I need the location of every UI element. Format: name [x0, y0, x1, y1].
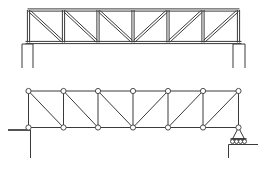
diagonal-member: [99, 11, 132, 42]
diagonal-member: [29, 91, 64, 128]
pin-support: [8, 130, 31, 158]
pin-joint: [200, 125, 205, 130]
pin-joint: [61, 125, 66, 130]
pin-joint: [95, 88, 100, 93]
roller-icon: [239, 140, 243, 144]
roller-icon: [243, 140, 247, 144]
diagonal-member: [134, 11, 167, 42]
pin-joint: [61, 88, 66, 93]
diagonal-member: [168, 91, 203, 128]
truss-diagram: [0, 0, 272, 171]
diagonal-member: [98, 91, 133, 128]
bottom-chord: [26, 41, 242, 43]
vertical-member: [27, 10, 29, 43]
vertical-member: [202, 10, 204, 43]
vertical-member: [62, 10, 64, 43]
diagonal-member: [133, 91, 168, 128]
roller-icon: [231, 140, 235, 144]
vertical-member: [132, 10, 134, 43]
diagonal-member: [204, 11, 238, 42]
pin-joint: [236, 125, 241, 130]
diagonal-member: [29, 11, 62, 42]
vertical-member: [237, 10, 239, 43]
pin-joint: [130, 88, 135, 93]
pin-joint: [95, 125, 100, 130]
pin-joint: [200, 88, 205, 93]
right-support-column: [233, 44, 245, 68]
vertical-member: [97, 10, 99, 43]
idealized-truss-model: [8, 88, 258, 158]
diagonal-member: [64, 11, 97, 42]
pin-joint: [165, 125, 170, 130]
roller-support: [229, 128, 259, 159]
structural-truss-drawing: [22, 9, 245, 68]
pin-joint: [165, 88, 170, 93]
left-support-column: [22, 44, 33, 68]
top-chord: [28, 9, 240, 11]
pin-joint: [236, 88, 241, 93]
diagonal-member: [203, 91, 239, 128]
pin-joint: [130, 125, 135, 130]
pin-joint: [26, 125, 31, 130]
diagonal-member: [169, 11, 202, 42]
pin-joint: [26, 88, 31, 93]
vertical-member: [167, 10, 169, 43]
roller-icon: [235, 140, 239, 144]
diagonal-member: [64, 91, 99, 128]
